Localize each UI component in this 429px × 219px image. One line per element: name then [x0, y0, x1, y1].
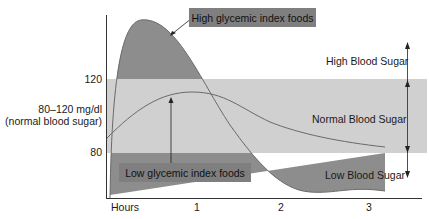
- x-axis-label-hours: Hours: [111, 202, 139, 213]
- high-gi-callout: High glycemic index foods: [189, 8, 316, 27]
- x-tick-2: 2: [278, 202, 284, 213]
- x-tick-3: 3: [366, 202, 372, 213]
- y-tick-120: 120: [70, 74, 102, 85]
- normal-range-label-line1: 80–120 mg/dl: [0, 103, 102, 115]
- low-gi-callout-text: Low glycemic index foods: [125, 167, 245, 179]
- arrow-up-icon: [405, 42, 410, 49]
- normal-range-label: 80–120 mg/dl (normal blood sugar): [0, 103, 102, 127]
- normal-range-label-line2: (normal blood sugar): [0, 115, 102, 127]
- high-gi-callout-text: High glycemic index foods: [192, 12, 314, 24]
- low-gi-callout: Low glycemic index foods: [119, 163, 251, 182]
- arrow-down-icon: [405, 171, 410, 178]
- zone-label-normal: Normal Blood Sugar: [312, 114, 407, 125]
- y-tick-80: 80: [70, 147, 102, 158]
- zone-label-high: High Blood Sugar: [326, 56, 408, 67]
- zone-label-low: Low Blood Sugar: [325, 170, 405, 181]
- x-tick-1: 1: [194, 202, 200, 213]
